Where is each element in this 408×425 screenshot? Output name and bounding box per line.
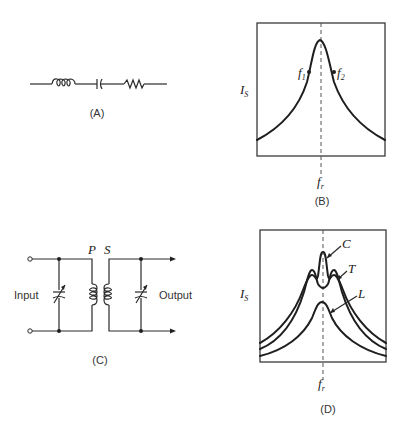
inductor-icon bbox=[52, 79, 75, 86]
figure-canvas: (A) f1 f2 IS fr (B) bbox=[0, 0, 408, 425]
caption-b: (B) bbox=[315, 195, 330, 207]
primary-top-wire bbox=[32, 259, 92, 284]
secondary-label: S bbox=[104, 242, 111, 257]
label-critical: C bbox=[342, 236, 351, 251]
point-f2 bbox=[332, 70, 336, 74]
output-label: Output bbox=[159, 289, 192, 301]
label-f1: f1 bbox=[298, 65, 306, 82]
input-label: Input bbox=[14, 289, 38, 301]
primary-bottom-wire bbox=[32, 305, 92, 331]
caption-d: (D) bbox=[320, 403, 335, 415]
input-terminal-top bbox=[28, 257, 32, 261]
junction-dot bbox=[139, 257, 143, 261]
x-marker-fr: fr bbox=[317, 174, 325, 191]
input-terminal-bottom bbox=[28, 329, 32, 333]
y-axis-label: IS bbox=[239, 286, 248, 303]
panel-c-coupled-circuit: P S Input Output (C) bbox=[14, 242, 192, 366]
caption-c: (C) bbox=[92, 354, 107, 366]
output-arrow-icon bbox=[170, 329, 176, 334]
resistor-icon bbox=[124, 80, 144, 88]
panel-a-series-circuit: (A) bbox=[30, 79, 167, 119]
caption-a: (A) bbox=[90, 107, 105, 119]
output-arrow-icon bbox=[170, 257, 176, 262]
label-f2: f2 bbox=[337, 65, 345, 82]
primary-coil-icon bbox=[90, 284, 98, 305]
junction-dot bbox=[57, 257, 61, 261]
point-f1 bbox=[307, 70, 311, 74]
arrowhead-icon bbox=[330, 308, 335, 313]
primary-label: P bbox=[87, 242, 96, 257]
label-loose: L bbox=[357, 286, 365, 301]
junction-dot bbox=[139, 329, 143, 333]
panel-d-coupling-chart: C T L IS fr (D) bbox=[239, 230, 386, 415]
y-axis-label: IS bbox=[239, 82, 248, 99]
x-marker-fr: fr bbox=[318, 376, 326, 393]
secondary-coil-icon bbox=[104, 284, 112, 305]
junction-dot bbox=[57, 329, 61, 333]
label-tight: T bbox=[348, 261, 356, 276]
panel-b-resonance-chart: f1 f2 IS fr (B) bbox=[239, 23, 385, 207]
